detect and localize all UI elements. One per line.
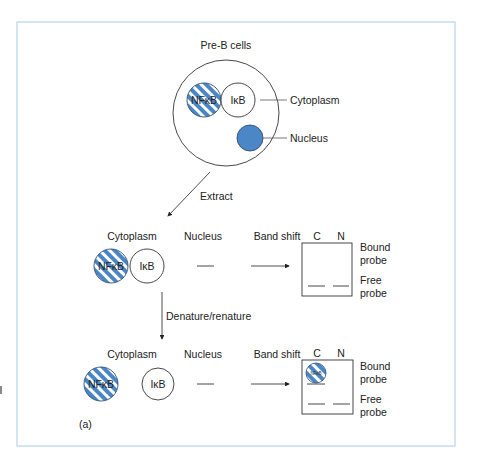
row2-free-probe-label: probe — [360, 406, 387, 418]
row1-free-label: Free — [360, 274, 382, 286]
row1-bound-probe-label: probe — [360, 254, 387, 266]
row1-bound-label: Bound — [360, 241, 391, 253]
row1-bandshift-header: Band shift — [254, 230, 301, 242]
row1-ikb-label: IκB — [139, 260, 154, 272]
row1-lane-c: C — [313, 230, 321, 242]
ikb-label: IκB — [230, 94, 245, 106]
row1-nfkb-label: NFκB — [98, 260, 124, 272]
row2-nfkb-label: NFκB — [88, 378, 114, 390]
row2-free-label: Free — [360, 393, 382, 405]
row1-free-probe-label: probe — [360, 287, 387, 299]
row2-lane-c: C — [313, 347, 321, 359]
nfkb-label: NFκB — [191, 94, 217, 106]
row2-nucleus-header: Nucleus — [184, 348, 222, 360]
nfkb-bandshift-diagram: Pre-B cells NFκB IκB Cytoplasm Nucleus E… — [0, 0, 479, 464]
row2-bound-label: Bound — [360, 360, 391, 372]
extract-label: Extract — [200, 190, 233, 202]
nucleus-label: Nucleus — [290, 132, 328, 144]
row1-lane-n: N — [337, 230, 345, 242]
row2-band-nfkb-label: NFκB — [310, 371, 321, 376]
denature-label: Denature/renature — [166, 310, 251, 322]
row1-cytoplasm-header: Cytoplasm — [107, 230, 157, 242]
pre-b-cell-circle — [173, 60, 279, 166]
panel-label: (a) — [79, 418, 92, 430]
row2-cytoplasm-header: Cytoplasm — [107, 348, 157, 360]
nucleus-circle — [237, 125, 263, 151]
cytoplasm-label: Cytoplasm — [290, 94, 340, 106]
row2-lane-n: N — [337, 347, 345, 359]
row2-bandshift-header: Band shift — [254, 348, 301, 360]
edge-mark — [0, 386, 2, 394]
row2-ikb-label: IκB — [150, 378, 165, 390]
row1-gel-box — [302, 243, 352, 296]
row2-bound-probe-label: probe — [360, 373, 387, 385]
row1-nucleus-header: Nucleus — [184, 230, 222, 242]
pre-b-cells-title: Pre-B cells — [201, 39, 252, 51]
